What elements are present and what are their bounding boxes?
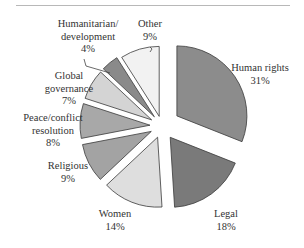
label-humanitarian: Humanitarian/ development 4% [48, 18, 128, 56]
label-text: Women [90, 208, 140, 221]
label-human-rights: Human rights 31% [220, 62, 300, 87]
label-other: Other 9% [130, 18, 170, 43]
label-women: Women 14% [90, 208, 140, 233]
label-text-2: resolution [14, 125, 92, 138]
label-pct: 9% [130, 31, 170, 44]
label-pct: 31% [220, 75, 300, 88]
label-pct: 7% [34, 95, 104, 108]
label-text: Peace/conflict [14, 112, 92, 125]
label-text-2: development [48, 31, 128, 44]
label-legal: Legal 18% [196, 208, 256, 233]
label-pct: 8% [14, 137, 92, 150]
label-peace: Peace/conflict resolution 8% [14, 112, 92, 150]
label-text-2: governance [34, 83, 104, 96]
pie-slice-human-rights [177, 46, 247, 142]
label-pct: 18% [196, 221, 256, 234]
label-pct: 14% [90, 221, 140, 234]
label-pct: 4% [48, 43, 128, 56]
label-text: Global [34, 70, 104, 83]
label-text: Other [130, 18, 170, 31]
label-text: Legal [196, 208, 256, 221]
label-religious: Religious 9% [38, 160, 98, 185]
label-global-governance: Global governance 7% [34, 70, 104, 108]
label-text: Humanitarian/ [48, 18, 128, 31]
pie-slice-legal [170, 137, 235, 207]
label-text: Human rights [220, 62, 300, 75]
label-text: Religious [38, 160, 98, 173]
label-pct: 9% [38, 173, 98, 186]
